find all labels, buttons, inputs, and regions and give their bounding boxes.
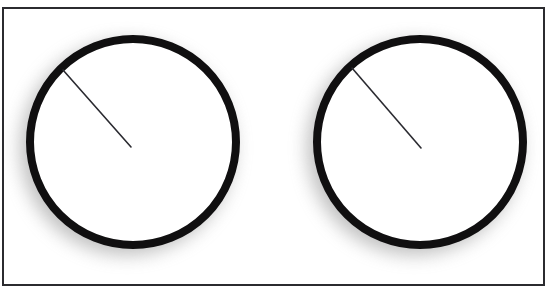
right-dial-hand[interactable] <box>352 68 421 148</box>
left-dial[interactable] <box>26 35 240 249</box>
right-dial[interactable] <box>313 35 527 249</box>
left-dial-hand[interactable] <box>63 70 131 147</box>
right-dial-hand-layer <box>313 35 527 249</box>
scene-canvas <box>0 0 557 296</box>
left-dial-hand-layer <box>26 35 240 249</box>
